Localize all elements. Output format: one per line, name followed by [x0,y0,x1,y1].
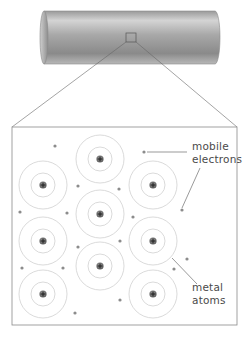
mobile-electron-dot [142,150,145,153]
mobile-electron-dot [76,245,79,248]
mobile-electron-dot [73,311,76,314]
label-line-2: electrons [192,153,242,166]
mobile-electron-dot [185,257,188,260]
label-line-2: atoms [192,294,226,307]
mobile-electron-dot [61,266,64,269]
metal-rod [40,11,220,64]
mobile-electron-dot [180,208,183,211]
mobile-electron-dot [118,298,121,301]
label-line-1: mobile [192,140,242,153]
mobile-electron-dot [18,210,21,213]
metal-atoms-label: metal atoms [192,281,226,307]
mobile-electron-dot [65,211,68,214]
mobile-electron-dot [76,184,79,187]
mobile-electron-dot [118,239,121,242]
mobile-electron-dot [20,266,23,269]
label-line-1: metal [192,281,226,294]
mobile-electrons-label: mobile electrons [192,140,242,166]
mobile-electron-dot [53,144,56,147]
mobile-electron-dot [131,215,134,218]
mobile-electron-dot [172,267,175,270]
mobile-electron-dot [117,187,120,190]
